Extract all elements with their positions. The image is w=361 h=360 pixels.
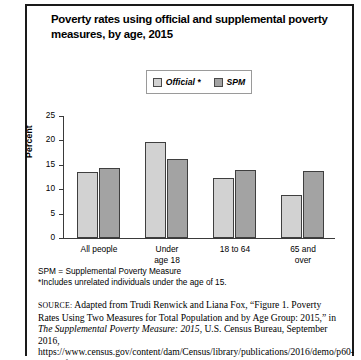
source-prefix: SOURCE: xyxy=(38,301,72,310)
legend-swatch-official xyxy=(153,78,162,87)
legend-entry-spm: SPM xyxy=(214,77,246,87)
bar-group xyxy=(145,116,189,238)
bar-official xyxy=(145,142,166,238)
bar-group xyxy=(77,116,121,238)
y-axis-line xyxy=(63,116,64,239)
y-axis-tick: 20 xyxy=(59,140,64,141)
bar-spm xyxy=(167,159,188,238)
plot-area: 0510152025 All peopleUnderage 1818 to 64… xyxy=(63,116,335,239)
y-axis-tick-label: 25 xyxy=(46,110,55,120)
bar-spm xyxy=(303,171,324,238)
y-axis-tick: 25 xyxy=(59,116,64,117)
note-line: *Includes unrelated individuals under th… xyxy=(38,277,338,288)
y-axis-tick: 5 xyxy=(59,214,64,215)
x-axis-line xyxy=(63,238,335,239)
source-publication-title: The Supplemental Poverty Measure: 2015 xyxy=(38,323,200,334)
bar-spm xyxy=(99,168,120,238)
source-citation: SOURCE: Adapted from Trudi Renwick and L… xyxy=(38,299,340,360)
y-axis-tick-label: 10 xyxy=(46,183,55,193)
y-axis-tick-label: 5 xyxy=(50,208,55,218)
bar-official xyxy=(213,178,234,239)
y-axis-tick-label: 15 xyxy=(46,159,55,169)
y-axis-title: Percent xyxy=(24,125,34,158)
source-text-part1: Adapted from Trudi Renwick and Liana Fox… xyxy=(38,299,336,323)
bar-official xyxy=(281,195,302,238)
y-axis-tick: 0 xyxy=(59,238,64,239)
y-axis-tick-label: 20 xyxy=(46,134,55,144)
legend-swatch-spm xyxy=(214,78,223,87)
x-axis-category-label: 65 andover xyxy=(260,244,346,265)
page-title: Poverty rates using official and supplem… xyxy=(51,12,331,42)
y-axis-tick: 10 xyxy=(59,189,64,190)
bar-group xyxy=(213,116,257,238)
bar-official xyxy=(77,172,98,238)
legend-label-spm: SPM xyxy=(227,77,246,87)
bar-group xyxy=(281,116,325,238)
y-axis-tick-label: 0 xyxy=(50,232,55,242)
note-line: SPM = Supplemental Poverty Measure xyxy=(38,266,338,277)
legend-entry-official: Official * xyxy=(153,77,201,87)
chart-legend: Official * SPM xyxy=(146,70,252,94)
chart-notes: SPM = Supplemental Poverty Measure *Incl… xyxy=(38,266,338,288)
legend-label-official: Official * xyxy=(166,77,201,87)
bar-spm xyxy=(235,170,256,238)
y-axis-tick: 15 xyxy=(59,165,64,166)
